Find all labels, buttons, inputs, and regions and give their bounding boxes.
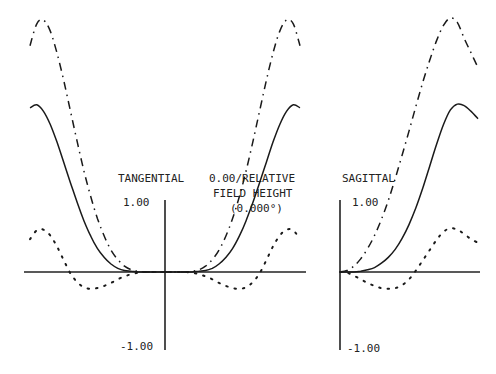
sagittal-panel: SAGITTAL 1.00 -1.00 (340, 18, 480, 355)
tangential-ytick-bottom: -1.00 (120, 340, 153, 353)
sagittal-curve-dash-dot (340, 18, 478, 272)
field-label-line2: FIELD HEIGHT (213, 187, 293, 200)
tangential-ytick-top: 1.00 (123, 196, 150, 209)
field-label-line1: 0.00/RELATIVE (209, 172, 295, 185)
sagittal-ytick-bottom: -1.00 (347, 342, 380, 355)
aberration-plot: TANGENTIAL 1.00 -1.00 0.00/RELATIVE FIEL… (0, 0, 496, 374)
sagittal-title: SAGITTAL (342, 172, 395, 185)
sagittal-curve-solid (340, 104, 478, 272)
tangential-panel: TANGENTIAL 1.00 -1.00 0.00/RELATIVE FIEL… (24, 20, 306, 353)
sagittal-ytick-top: 1.00 (352, 196, 379, 209)
tangential-title: TANGENTIAL (118, 172, 185, 185)
field-label-line3: (0.000°) (230, 202, 283, 215)
